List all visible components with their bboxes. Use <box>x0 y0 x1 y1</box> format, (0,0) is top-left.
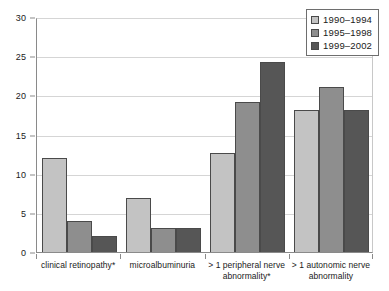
x-axis-label-line: > 1 autonomic nerve <box>289 260 373 271</box>
x-axis-category-label: clinical retinopathy* <box>36 260 120 271</box>
y-tick-mark <box>30 18 35 19</box>
y-tick-mark <box>30 135 35 136</box>
legend-item: 1999–2002 <box>311 39 372 52</box>
y-tick-mark <box>30 96 35 97</box>
y-tick-label: 15 <box>16 131 26 140</box>
legend-item: 1995–1998 <box>311 26 372 39</box>
y-tick-mark <box>30 213 35 214</box>
legend-swatch-icon <box>311 16 319 24</box>
bar <box>42 158 67 252</box>
x-axis-category-label: microalbuminuria <box>120 260 204 271</box>
y-axis: 051015202530 <box>0 18 36 253</box>
bar <box>176 228 201 252</box>
x-axis-label-line: clinical retinopathy* <box>36 260 120 271</box>
y-tick-mark <box>30 253 35 254</box>
x-axis-tick-mark <box>36 254 37 259</box>
bar <box>92 236 117 252</box>
y-tick-label: 25 <box>16 53 26 62</box>
x-axis: clinical retinopathy*microalbuminuria> 1… <box>36 254 373 291</box>
x-axis-label-line: microalbuminuria <box>120 260 204 271</box>
y-tick-label: 0 <box>21 249 26 258</box>
x-axis-label-line: abnormality* <box>205 271 289 282</box>
y-tick-label: 5 <box>21 209 26 218</box>
legend-item-label: 1990–1994 <box>323 15 372 25</box>
x-axis-label-line: abnormality <box>289 271 373 282</box>
y-tick-mark <box>30 57 35 58</box>
x-axis-category-label: > 1 peripheral nerveabnormality* <box>205 260 289 281</box>
bar <box>126 198 151 252</box>
bar <box>151 228 176 252</box>
bar <box>344 110 369 252</box>
x-axis-tick-mark <box>289 254 290 259</box>
bar-chart: 051015202530 1990–19941995–19981999–2002… <box>0 0 389 291</box>
bar-group <box>37 19 121 252</box>
legend-swatch-icon <box>311 42 319 50</box>
x-axis-tick-mark <box>372 254 373 259</box>
y-tick-label: 20 <box>16 92 26 101</box>
legend-item: 1990–1994 <box>311 13 372 26</box>
bar <box>294 110 319 252</box>
x-axis-category-label: > 1 autonomic nerveabnormality <box>289 260 373 281</box>
bar <box>210 153 235 252</box>
bar <box>260 62 285 252</box>
bar-group <box>121 19 205 252</box>
chart-legend: 1990–19941995–19981999–2002 <box>306 9 379 56</box>
legend-item-label: 1999–2002 <box>323 41 372 51</box>
y-tick-label: 10 <box>16 170 26 179</box>
bar-group <box>206 19 290 252</box>
x-axis-tick-mark <box>205 254 206 259</box>
bar <box>319 87 344 252</box>
legend-swatch-icon <box>311 29 319 37</box>
y-tick-mark <box>30 174 35 175</box>
bar <box>67 221 92 252</box>
x-axis-label-line: > 1 peripheral nerve <box>205 260 289 271</box>
legend-item-label: 1995–1998 <box>323 28 372 38</box>
bar <box>235 102 260 252</box>
x-axis-tick-mark <box>120 254 121 259</box>
y-tick-label: 30 <box>16 14 26 23</box>
